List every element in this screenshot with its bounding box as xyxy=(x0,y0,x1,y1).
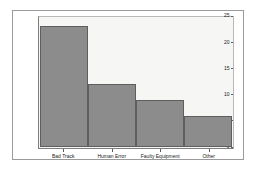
x-tick-label: Human Error xyxy=(88,153,137,160)
x-tick-mark xyxy=(209,149,210,152)
x-tick: Other xyxy=(185,149,234,161)
chart-figure: Frequency 0510152025 Bad TrackHuman Erro… xyxy=(12,10,244,160)
bar[interactable] xyxy=(88,84,136,147)
bar[interactable] xyxy=(184,116,232,147)
x-tick-label: Bad Track xyxy=(39,153,88,160)
x-tick-label: Other xyxy=(185,153,234,160)
bar-cell xyxy=(88,18,136,147)
x-tick-mark xyxy=(160,149,161,152)
bar[interactable] xyxy=(136,100,184,147)
x-tick: Human Error xyxy=(88,149,137,161)
y-tick-mark xyxy=(231,16,234,17)
bar-cell xyxy=(40,18,88,147)
x-tick-mark xyxy=(112,149,113,152)
x-tick-mark xyxy=(63,149,64,152)
x-tick: Faulty Equipment xyxy=(136,149,185,161)
plot-area: 0510152025 xyxy=(38,16,234,149)
bar[interactable] xyxy=(40,26,88,147)
x-tick: Bad Track xyxy=(39,149,88,161)
bar-series xyxy=(40,18,232,147)
bar-cell xyxy=(184,18,232,147)
x-axis: Bad TrackHuman ErrorFaulty EquipmentOthe… xyxy=(38,149,234,161)
x-tick-label: Faulty Equipment xyxy=(136,153,185,160)
bar-cell xyxy=(136,18,184,147)
